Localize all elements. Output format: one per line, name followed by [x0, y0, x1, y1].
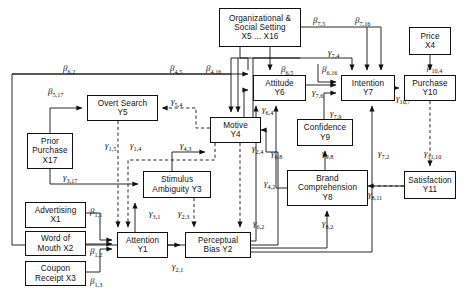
path-label-g98: γ9,8 — [322, 148, 333, 160]
node-prior-purchase[interactable]: Prior Purchase X17 — [27, 133, 73, 169]
node-confidence[interactable]: Confidence Y9 — [297, 119, 353, 146]
path-label-g14: γ1,4 — [130, 140, 141, 152]
path-label-g24: γ2,4 — [252, 143, 263, 155]
node-label-line: Word of — [36, 234, 76, 243]
path-label-b45: β4,5 — [170, 63, 182, 75]
node-label-line: Attitude — [263, 79, 296, 88]
node-attention[interactable]: Attention Y1 — [117, 232, 168, 258]
path-label-b317: γ3,17 — [63, 172, 77, 184]
node-label-line: Y6 — [263, 88, 296, 97]
node-label-line: Price — [418, 32, 441, 41]
node-label-line: Social Setting — [227, 23, 293, 32]
path-label-b517: β5,17 — [48, 86, 63, 98]
path-label-g107: γ10,7 — [396, 93, 410, 105]
node-label-line: Purchase — [30, 146, 69, 155]
path-label-b75: β7,5 — [313, 15, 325, 27]
node-label-line: X1 — [33, 215, 79, 224]
path-label-g21: γ2,1 — [172, 261, 183, 273]
path-label-g72: γ7,2 — [378, 148, 389, 160]
node-label-line: Overt Search — [96, 99, 149, 108]
node-label-line: Prior — [30, 137, 69, 146]
node-motive[interactable]: Motive Y4 — [210, 117, 261, 143]
node-label-line: Y11 — [406, 185, 454, 194]
node-label-line: Organizational & — [227, 14, 293, 23]
node-label-line: Y9 — [302, 133, 348, 142]
path-label-g79: γ7,9 — [330, 108, 341, 120]
node-label-line: Comprehension — [296, 183, 359, 192]
node-label-line: Bias Y2 — [196, 245, 240, 254]
node-label-line: Y7 — [350, 88, 386, 97]
path-label-b716: β7,16 — [355, 15, 370, 27]
path-label-g1110: γ11,10 — [424, 148, 441, 160]
node-coupon-receipt[interactable]: Coupon Receipt X3 — [25, 261, 86, 286]
node-label-line: Ambiguity Y3 — [150, 185, 203, 194]
node-label-line: Purchase — [410, 79, 449, 88]
path-label-b65: β6,5 — [281, 64, 293, 76]
path-label-g23: γ2,3 — [178, 208, 189, 220]
node-label-line: X4 — [418, 41, 441, 50]
path-label-b104: β10,4 — [427, 62, 442, 74]
node-label-line: Receipt X3 — [33, 274, 78, 283]
path-label-b62: β6,2 — [63, 63, 75, 75]
node-intention[interactable]: Intention Y7 — [341, 75, 395, 101]
node-overt-search[interactable]: Overt Search Y5 — [87, 95, 158, 121]
node-label-line: Y8 — [296, 193, 359, 202]
path-label-g82: γ8,2 — [322, 218, 333, 230]
node-label-line: Advertising — [33, 206, 79, 215]
path-label-g54: γ5,4 — [171, 96, 182, 108]
node-label-line: Confidence — [302, 123, 348, 132]
node-label-line: Motive — [221, 121, 250, 130]
node-word-of-mouth[interactable]: Word of Mouth X2 — [25, 231, 86, 256]
node-label-line: Attention — [124, 236, 161, 245]
path-label-b13: β1,3 — [90, 276, 102, 288]
path-label-g62: γ6,2 — [253, 218, 264, 230]
path-label-g15: γ1,5 — [105, 140, 116, 152]
path-label-b616: β6,16 — [322, 64, 337, 76]
path-label-g74: γ7,4 — [328, 47, 339, 59]
path-label-g42: γ4,2 — [264, 178, 275, 190]
path-label-b416: β4,16 — [206, 63, 221, 75]
path-label-g76: γ7,6 — [312, 87, 323, 99]
path-label-g43: γ4,3 — [180, 140, 191, 152]
node-brand-comprehension[interactable]: Brand Comprehension Y8 — [287, 170, 368, 206]
node-label-line: X17 — [30, 156, 69, 165]
node-label-line: Y1 — [124, 245, 161, 254]
node-organizational-social-setting[interactable]: Organizational & Social Setting X5 ... X… — [219, 8, 301, 47]
node-purchase[interactable]: Purchase Y10 — [404, 75, 456, 101]
path-label-g811: γ8,11 — [368, 189, 382, 201]
node-advertising[interactable]: Advertising X1 — [25, 202, 86, 228]
path-label-b12: β1,2 — [90, 246, 102, 258]
node-perceptual-bias[interactable]: Perceptual Bias Y2 — [185, 232, 251, 258]
node-stimulus-ambiguity[interactable]: Stimulus Ambiguity Y3 — [143, 171, 211, 198]
path-label-g68: γ6,8 — [271, 148, 282, 160]
node-label-line: Brand — [296, 174, 359, 183]
path-label-b11: β1,1 — [90, 206, 102, 218]
node-label-line: Mouth X2 — [36, 244, 76, 253]
path-label-g31: γ3,1 — [149, 208, 160, 220]
node-price[interactable]: Price X4 — [409, 27, 451, 55]
node-label-line: Y4 — [221, 130, 250, 139]
node-label-line: Y10 — [410, 88, 449, 97]
node-label-line: Stimulus — [150, 175, 203, 184]
node-label-line: Intention — [350, 79, 386, 88]
node-label-line: Perceptual — [196, 236, 240, 245]
path-diagram-canvas: Organizational & Social Setting X5 ... X… — [0, 0, 465, 301]
node-label-line: X5 ... X16 — [227, 32, 293, 41]
node-label-line: Y5 — [96, 108, 149, 117]
node-attitude[interactable]: Attitude Y6 — [253, 75, 306, 101]
node-satisfaction[interactable]: Satisfaction Y11 — [404, 171, 456, 199]
path-label-g64: γ6,4 — [262, 104, 273, 116]
node-label-line: Satisfaction — [406, 176, 454, 185]
node-label-line: Coupon — [33, 264, 78, 273]
